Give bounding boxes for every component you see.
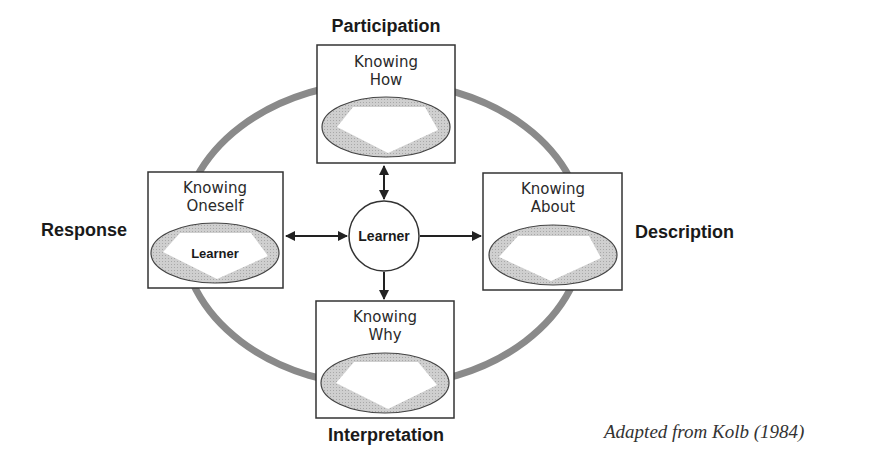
pole-label-bottom: Interpretation xyxy=(328,425,444,445)
box-title-line2: Why xyxy=(368,326,401,344)
center-learner-node: Learner xyxy=(349,201,419,271)
box-title-line1: Knowing xyxy=(521,180,585,198)
citation: Adapted from Kolb (1984) xyxy=(604,421,804,443)
box-knowing-about: Knowing About xyxy=(483,173,622,290)
box-title-line2: About xyxy=(531,198,575,216)
inner-learner-label: Learner xyxy=(191,246,239,261)
pole-label-top: Participation xyxy=(331,16,440,36)
pole-label-right: Description xyxy=(635,222,734,242)
box-title-line1: Knowing xyxy=(183,179,247,197)
box-title-line2: Oneself xyxy=(186,197,244,215)
pole-label-left: Response xyxy=(41,220,127,240)
center-label: Learner xyxy=(358,228,410,244)
box-knowing-why: Knowing Why xyxy=(316,301,454,418)
box-title-line1: Knowing xyxy=(353,308,417,326)
box-title-line1: Knowing xyxy=(354,53,418,71)
box-knowing-how: Knowing How xyxy=(317,45,455,163)
kolb-learning-diagram: Participation Response Description Inter… xyxy=(0,0,881,471)
box-title-line2: How xyxy=(370,71,403,89)
box-knowing-oneself: Knowing Oneself Learner xyxy=(148,172,283,288)
